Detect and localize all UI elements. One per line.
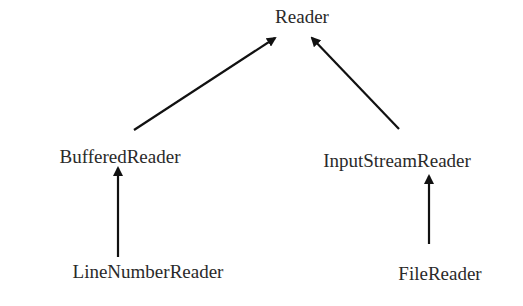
class-hierarchy-diagram: Reader BufferedReader InputStreamReader … [0,0,523,306]
node-input-stream-reader: InputStreamReader [323,151,471,170]
arrow-inputstream-to-reader [312,38,399,129]
node-reader: Reader [275,7,329,26]
node-line-number-reader: LineNumberReader [73,262,224,281]
node-file-reader: FileReader [398,264,481,283]
node-buffered-reader: BufferedReader [60,147,181,166]
arrow-buffered-to-reader [134,38,275,130]
